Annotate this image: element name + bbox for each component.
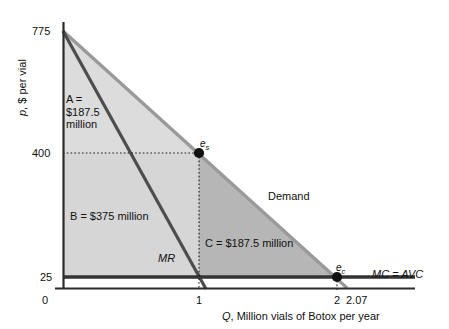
region-b-label-text: B = $375 million <box>70 210 149 222</box>
point-es-label: es <box>200 138 209 152</box>
y-axis-title-symbol: p <box>16 110 28 116</box>
region-a-label-line3: million <box>66 118 97 130</box>
x-tick-2: 2 <box>334 294 340 306</box>
y-tick-25: 25 <box>40 271 52 283</box>
region-a-label-line1: A = <box>66 93 82 105</box>
botox-monopoly-chart: p, $ per vial 775 400 25 0 1 2 2.07 Q, M… <box>0 0 449 329</box>
x-axis-title-symbol: Q <box>222 310 231 322</box>
point-es-sub: s <box>206 143 210 152</box>
region-b-label: B = $375 million <box>70 210 149 223</box>
region-c-label-text: C = $187.5 million <box>205 237 293 249</box>
y-axis-title: p, $ per vial <box>16 59 28 116</box>
region-c-label: C = $187.5 million <box>205 237 293 250</box>
x-axis-title: Q, Million vials of Botox per year <box>222 310 380 322</box>
x-axis-title-text: , Million vials of Botox per year <box>231 310 380 322</box>
y-tick-775: 775 <box>32 25 50 37</box>
region-a-label-line2: $187.5 <box>66 106 100 118</box>
y-tick-400: 400 <box>32 147 50 159</box>
point-ec-label: ec <box>336 262 345 276</box>
point-ec-sub: c <box>342 267 346 276</box>
demand-label: Demand <box>268 190 310 203</box>
region-a-label: A = $187.5 million <box>66 93 100 131</box>
x-tick-1: 1 <box>196 294 202 306</box>
mc-avc-label: MC = AVC <box>372 268 423 281</box>
y-axis-title-text: , $ per vial <box>16 59 28 110</box>
x-tick-207: 2.07 <box>346 294 367 306</box>
x-tick-0: 0 <box>42 294 48 306</box>
mr-label: MR <box>158 252 175 265</box>
